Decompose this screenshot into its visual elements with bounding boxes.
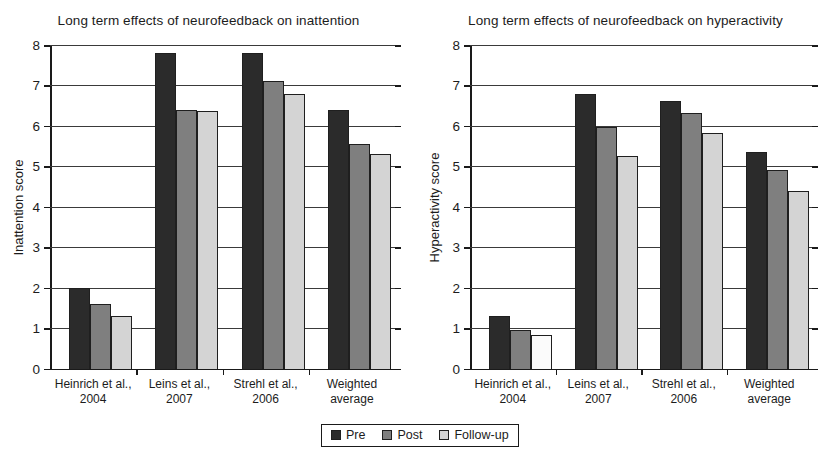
x-axis-group-tick [641, 369, 643, 375]
y-tick-right-hyperactivity-8 [812, 45, 818, 47]
x-axis-category-label: Heinrich et al.,2004 [470, 377, 556, 407]
y-tick-right-hyperactivity-7 [812, 85, 818, 87]
y-tick-label-inattention-5: 5 [32, 159, 40, 174]
y-tick-right-inattention-3 [395, 247, 401, 249]
bar-inattention-post [90, 304, 111, 369]
legend-item-follow: Follow-up [439, 428, 508, 442]
y-tick-label-hyperactivity-8: 8 [452, 38, 460, 53]
bar-group-inner [489, 45, 552, 369]
x-axis-category-label-line: 2006 [223, 392, 309, 407]
y-tick-label-inattention-1: 1 [32, 321, 40, 336]
y-tick-label-inattention-2: 2 [32, 280, 40, 295]
bar-group-inner [242, 45, 305, 369]
bar-inattention-post [349, 144, 370, 368]
x-axis-category-label: Weightedaverage [727, 377, 813, 407]
y-tick-label-hyperactivity-3: 3 [452, 240, 460, 255]
bar-group [556, 45, 642, 369]
y-tick-right-inattention-1 [395, 328, 401, 330]
y-tick-label-hyperactivity-1: 1 [452, 321, 460, 336]
x-axis-category-label-line: Strehl et al., [234, 377, 298, 391]
y-tick-right-inattention-6 [395, 126, 401, 128]
x-axis-group-tick [136, 369, 138, 375]
x-axis-category-labels-inattention: Heinrich et al.,2004Leins et al.,2007Str… [50, 377, 395, 407]
bar-inattention-follow [111, 316, 132, 369]
bar-group-inner [575, 45, 638, 369]
bar-hyperactivity-follow [788, 191, 809, 368]
bar-group-inner [155, 45, 218, 369]
plot-area-hyperactivity: 012345678 [470, 45, 812, 370]
x-axis-category-label-line: Heinrich et al., [474, 377, 551, 391]
bar-inattention-pre [69, 288, 90, 369]
bar-group-inner [660, 45, 723, 369]
bar-group [309, 45, 395, 369]
bar-hyperactivity-follow [702, 133, 723, 368]
bar-hyperactivity-pre [575, 94, 596, 368]
bar-hyperactivity-post [767, 170, 788, 368]
bar-hyperactivity-post [596, 127, 617, 368]
legend-label-post: Post [397, 428, 422, 442]
y-tick-right-inattention-5 [395, 166, 401, 168]
bar-group [641, 45, 727, 369]
y-tick-label-hyperactivity-6: 6 [452, 118, 460, 133]
bar-group [136, 45, 222, 369]
y-tick-label-hyperactivity-2: 2 [452, 280, 460, 295]
x-axis-category-label-line: Weighted [744, 377, 794, 391]
y-tick-right-hyperactivity-4 [812, 207, 818, 209]
y-axis-title-text-inattention: Inattention score [11, 159, 26, 255]
bar-hyperactivity-pre [489, 316, 510, 369]
chart-panel-hyperactivity: Long term effects of neurofeedback on hy… [417, 0, 834, 420]
y-tick-right-hyperactivity-0 [812, 369, 818, 371]
y-tick-label-inattention-7: 7 [32, 78, 40, 93]
bar-groups-inattention [50, 45, 395, 369]
y-tick-right-hyperactivity-1 [812, 328, 818, 330]
x-axis-group-tick [727, 369, 729, 375]
bar-hyperactivity-follow [617, 156, 638, 368]
x-axis-category-label: Strehl et al.,2006 [223, 377, 309, 407]
y-tick-right-inattention-7 [395, 85, 401, 87]
bar-inattention-pre [155, 53, 176, 368]
chart-title-inattention: Long term effects of neurofeedback on in… [0, 13, 417, 28]
bar-hyperactivity-post [681, 113, 702, 369]
y-tick-right-inattention-4 [395, 207, 401, 209]
bar-groups-hyperactivity [470, 45, 812, 369]
y-tick-right-hyperactivity-3 [812, 247, 818, 249]
chart-panel-inattention: Long term effects of neurofeedback on in… [0, 0, 417, 420]
bar-inattention-follow [370, 154, 391, 368]
x-axis-category-label-line: Heinrich et al., [55, 377, 132, 391]
bar-inattention-follow [197, 111, 218, 369]
y-tick-right-inattention-8 [395, 45, 401, 47]
y-tick-label-inattention-3: 3 [32, 240, 40, 255]
y-tick-label-hyperactivity-7: 7 [452, 78, 460, 93]
y-tick-right-hyperactivity-6 [812, 126, 818, 128]
y-tick-label-inattention-8: 8 [32, 38, 40, 53]
legend-swatch-pre-icon [331, 430, 341, 440]
bar-group [470, 45, 556, 369]
bar-inattention-post [263, 81, 284, 368]
y-tick-label-inattention-0: 0 [32, 361, 40, 376]
x-axis-category-label: Weightedaverage [309, 377, 395, 407]
x-axis-group-tick [556, 369, 558, 375]
x-axis-category-label-line: 2004 [50, 392, 136, 407]
y-axis-title-inattention: Inattention score [8, 45, 28, 370]
plot-area-inattention: 012345678 [50, 45, 395, 370]
bar-group-inner [328, 45, 391, 369]
x-axis-category-label-line: average [309, 392, 395, 407]
y-tick-right-inattention-0 [395, 369, 401, 371]
y-tick-label-inattention-4: 4 [32, 199, 40, 214]
y-axis-title-hyperactivity: Hyperactivity score [425, 45, 445, 370]
x-axis-category-label-line: Leins et al., [568, 377, 629, 391]
legend-swatch-post-icon [382, 430, 392, 440]
legend: PrePostFollow-up [321, 424, 519, 447]
x-axis-category-label: Strehl et al.,2006 [641, 377, 727, 407]
bar-group [50, 45, 136, 369]
y-tick-right-inattention-2 [395, 288, 401, 290]
legend-item-post: Post [382, 428, 422, 442]
bar-group-inner [746, 45, 809, 369]
legend-item-pre: Pre [331, 428, 365, 442]
legend-swatch-follow-icon [439, 430, 449, 440]
bar-hyperactivity-pre [746, 152, 767, 369]
y-tick-hyperactivity-0 [464, 369, 470, 371]
bar-group-inner [69, 45, 132, 369]
bar-inattention-post [176, 110, 197, 369]
x-axis-group-tick [223, 369, 225, 375]
